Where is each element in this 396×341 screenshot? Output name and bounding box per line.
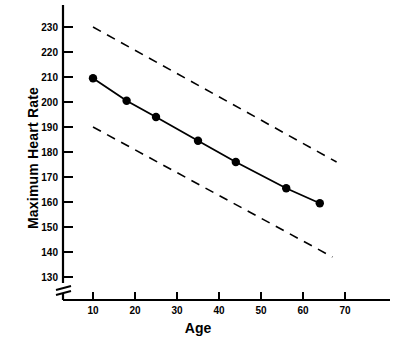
- data-series-layer: [89, 27, 337, 257]
- data-point-marker: [232, 158, 240, 166]
- data-point-marker: [316, 199, 324, 207]
- y-tick-label: 140: [41, 247, 58, 258]
- y-tick-label: 230: [41, 22, 58, 33]
- x-axis-title: Age: [0, 320, 396, 336]
- y-tick-label: 170: [41, 172, 58, 183]
- x-tick-label: 70: [339, 305, 351, 316]
- chart-plot-area: 230 220 210 200 190 180 170 160 150 140 …: [0, 0, 396, 341]
- chart-figure: 230 220 210 200 190 180 170 160 150 140 …: [0, 0, 396, 341]
- y-tick-label: 130: [41, 272, 58, 283]
- x-tick-label: 10: [87, 305, 99, 316]
- y-tick-label: 180: [41, 147, 58, 158]
- x-tick-label: 60: [297, 305, 309, 316]
- x-tick-label: 20: [129, 305, 141, 316]
- axis-break-icon: [56, 286, 71, 295]
- x-tick-label: 40: [213, 305, 225, 316]
- x-axis-ticks: [93, 292, 345, 300]
- y-axis-tick-labels: 230 220 210 200 190 180 170 160 150 140 …: [41, 22, 58, 283]
- x-tick-label: 50: [255, 305, 267, 316]
- y-axis-title: Maximum Heart Rate: [25, 63, 41, 253]
- x-tick-label: 30: [171, 305, 183, 316]
- y-tick-label: 220: [41, 47, 58, 58]
- y-axis-ticks: [63, 27, 73, 277]
- data-point-marker: [152, 113, 160, 121]
- y-tick-label: 160: [41, 197, 58, 208]
- y-tick-label: 150: [41, 222, 58, 233]
- axis-lines: [63, 5, 390, 300]
- data-point-marker: [282, 184, 290, 192]
- y-tick-label: 210: [41, 72, 58, 83]
- series-line-1: [93, 27, 337, 162]
- y-tick-label: 200: [41, 97, 58, 108]
- data-point-marker: [122, 97, 130, 105]
- data-point-marker: [89, 74, 97, 82]
- data-point-marker: [194, 137, 202, 145]
- y-tick-label: 190: [41, 122, 58, 133]
- x-axis-tick-labels: 10 20 30 40 50 60 70: [87, 305, 351, 316]
